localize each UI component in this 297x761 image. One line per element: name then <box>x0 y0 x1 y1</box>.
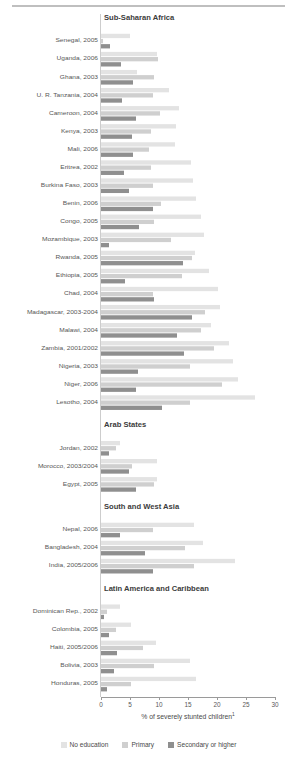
bar-primary <box>101 446 116 450</box>
bar-primary <box>101 310 205 314</box>
bar-primary <box>101 165 151 169</box>
bar-no-education <box>101 215 201 219</box>
bar-primary <box>101 682 131 686</box>
x-tick <box>217 697 218 700</box>
bar-no-education <box>101 196 196 200</box>
chart-row: Congo, 2005 <box>0 214 297 232</box>
row-bars <box>101 287 291 303</box>
x-tick <box>159 697 160 700</box>
row-label: U. R. Tanzania, 2004 <box>2 91 98 99</box>
bar-secondary-or-higher <box>101 487 136 491</box>
bar-primary <box>101 75 154 79</box>
row-bars <box>101 659 291 675</box>
bar-primary <box>101 546 185 550</box>
row-bars <box>101 178 291 194</box>
bar-primary <box>101 184 153 188</box>
bar-no-education <box>101 441 120 445</box>
row-bars <box>101 395 291 411</box>
row-bars <box>101 160 291 176</box>
bar-secondary-or-higher <box>101 651 117 655</box>
x-tick <box>246 697 247 700</box>
row-label: Ghana, 2003 <box>2 73 98 81</box>
section-header: Latin America and Caribbean <box>104 585 209 593</box>
bar-secondary-or-higher <box>101 333 177 337</box>
bar-no-education <box>101 305 220 309</box>
bar-secondary-or-higher <box>101 451 109 455</box>
chart-row: Mali, 2006 <box>0 141 297 159</box>
bar-no-education <box>101 106 179 110</box>
bar-secondary-or-higher <box>101 297 154 301</box>
row-label: Zambia, 2001/2002 <box>2 344 98 352</box>
bar-no-education <box>101 604 120 608</box>
row-bars <box>101 88 291 104</box>
chart-row: Colombia, 2005 <box>0 622 297 640</box>
row-label: Benin, 2006 <box>2 199 98 207</box>
row-bars <box>101 305 291 321</box>
row-label: India, 2005/2006 <box>2 561 98 569</box>
row-label: Egypt, 2005 <box>2 480 98 488</box>
legend-item[interactable]: Primary <box>122 741 154 748</box>
row-bars <box>101 233 291 249</box>
legend-swatch-icon <box>61 742 67 748</box>
bar-no-education <box>101 142 175 146</box>
row-bars <box>101 677 291 693</box>
row-label: Malawi, 2004 <box>2 326 98 334</box>
bar-primary <box>101 292 153 296</box>
bar-secondary-or-higher <box>101 533 120 537</box>
bar-secondary-or-higher <box>101 351 184 355</box>
bar-primary <box>101 646 143 650</box>
chart-row: Benin, 2006 <box>0 196 297 214</box>
row-label: Cameroon, 2004 <box>2 109 98 117</box>
row-label: Eritrea, 2002 <box>2 163 98 171</box>
bar-secondary-or-higher <box>101 243 109 247</box>
bar-secondary-or-higher <box>101 551 145 555</box>
row-label: Mali, 2006 <box>2 145 98 153</box>
row-bars <box>101 106 291 122</box>
bar-no-education <box>101 160 191 164</box>
bar-primary <box>101 129 151 133</box>
chart-row: Bolivia, 2003 <box>0 658 297 676</box>
legend-item[interactable]: Secondary or higher <box>168 741 236 748</box>
chart-row: Lesotho, 2004 <box>0 394 297 412</box>
bar-secondary-or-higher <box>101 207 153 211</box>
row-bars <box>101 341 291 357</box>
chart-row: India, 2005/2006 <box>0 558 297 576</box>
bar-primary <box>101 147 149 151</box>
bar-secondary-or-higher <box>101 369 138 373</box>
bar-no-education <box>101 88 169 92</box>
x-tick-label: 30 <box>265 701 285 708</box>
bar-no-education <box>101 395 255 399</box>
bar-primary <box>101 664 154 668</box>
bar-primary <box>101 482 154 486</box>
legend-label: No education <box>70 741 109 748</box>
section-header: Arab States <box>104 421 146 429</box>
legend-item[interactable]: No education <box>61 741 109 748</box>
chart-row: Ethiopia, 2005 <box>0 268 297 286</box>
bar-no-education <box>101 659 190 663</box>
row-label: Ethiopia, 2005 <box>2 271 98 279</box>
x-tick-label: 25 <box>236 701 256 708</box>
bar-primary <box>101 564 194 568</box>
x-tick <box>275 697 276 700</box>
row-label: Nepal, 2006 <box>2 525 98 533</box>
bar-secondary-or-higher <box>101 171 124 175</box>
bar-primary <box>101 93 153 97</box>
bar-primary <box>101 382 222 386</box>
bar-secondary-or-higher <box>101 669 114 673</box>
row-label: Jordan, 2002 <box>2 444 98 452</box>
row-label: Chad, 2004 <box>2 289 98 297</box>
chart-row: Rwanda, 2005 <box>0 250 297 268</box>
bar-primary <box>101 528 153 532</box>
chart-row: Haiti, 2005/2006 <box>0 640 297 658</box>
row-label: Niger, 2006 <box>2 380 98 388</box>
bar-no-education <box>101 623 131 627</box>
x-tick-label: 15 <box>178 701 198 708</box>
bar-no-education <box>101 124 176 128</box>
x-axis-title: % of severely stunted children1 <box>101 712 275 720</box>
row-bars <box>101 523 291 539</box>
bar-no-education <box>101 541 203 545</box>
bar-no-education <box>101 323 211 327</box>
row-label: Colombia, 2005 <box>2 625 98 633</box>
bar-primary <box>101 400 190 404</box>
bar-no-education <box>101 359 233 363</box>
